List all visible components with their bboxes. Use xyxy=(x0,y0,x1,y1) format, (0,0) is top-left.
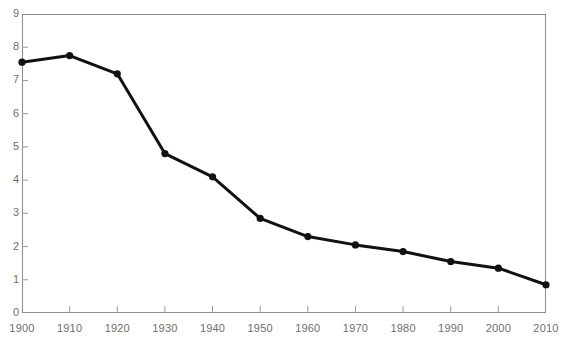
x-tick-label: 1980 xyxy=(381,323,425,334)
line-chart: 0123456789 19001910192019301940195019601… xyxy=(0,0,563,348)
x-tick-label: 2010 xyxy=(524,323,563,334)
x-tick-label: 1940 xyxy=(191,323,235,334)
x-tick-label: 1970 xyxy=(333,323,377,334)
x-tick-label: 1910 xyxy=(48,323,92,334)
x-tick-label: 1990 xyxy=(429,323,473,334)
x-tick-label: 1960 xyxy=(286,323,330,334)
x-tick-label: 1920 xyxy=(95,323,139,334)
x-tick-label: 1950 xyxy=(238,323,282,334)
x-tick-label: 1900 xyxy=(0,323,44,334)
x-axis-tick-labels: 1900191019201930194019501960197019801990… xyxy=(0,0,563,348)
x-tick-label: 1930 xyxy=(143,323,187,334)
x-tick-label: 2000 xyxy=(476,323,520,334)
